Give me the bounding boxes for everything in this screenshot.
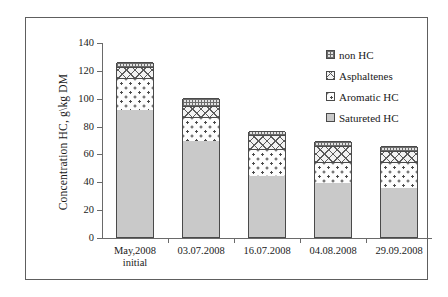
bar-segment	[249, 135, 285, 149]
y-tick-label: 100	[34, 93, 94, 104]
y-tick	[97, 182, 102, 183]
y-tick	[97, 99, 102, 100]
bar-segment	[117, 110, 153, 237]
bar-segment	[249, 176, 285, 237]
legend-swatch-icon	[326, 92, 335, 101]
y-tick-label: 80	[34, 121, 94, 132]
bar-segment	[183, 141, 219, 237]
legend-item-label: Aromatic HC	[339, 91, 399, 103]
bar[interactable]	[380, 147, 418, 238]
chart-frame: Concentration HC, g\kg DM 02040608010012…	[25, 17, 428, 280]
x-tick-label: 29.09.2008	[351, 245, 447, 257]
legend-swatch-icon	[326, 113, 335, 122]
bar-segment	[315, 183, 351, 237]
y-tick-label: 40	[34, 177, 94, 188]
legend-item[interactable]: Aromatic HC	[326, 86, 446, 107]
bar-segment	[249, 149, 285, 175]
y-tick	[97, 71, 102, 72]
x-tick	[168, 238, 169, 243]
bar[interactable]	[116, 63, 154, 239]
bar-segment	[117, 67, 153, 78]
bar-segment	[183, 106, 219, 117]
legend-item[interactable]: non HC	[326, 44, 446, 65]
y-tick	[97, 238, 102, 239]
y-tick-label: 120	[34, 66, 94, 77]
bar-segment	[381, 151, 417, 162]
bar-segment	[315, 162, 351, 183]
legend-item[interactable]: Asphaltenes	[326, 65, 446, 86]
chart-figure: Concentration HC, g\kg DM 02040608010012…	[0, 0, 448, 297]
y-tick	[97, 154, 102, 155]
legend-swatch-icon	[326, 50, 335, 59]
bar[interactable]	[314, 142, 352, 238]
bar-segment	[117, 62, 153, 68]
bar-segment	[381, 146, 417, 150]
legend-item-label: Satureted HC	[339, 112, 399, 124]
bar-segment	[183, 117, 219, 141]
bar[interactable]	[248, 132, 286, 238]
legend-item-label: non HC	[339, 49, 374, 61]
bar-segment	[381, 162, 417, 188]
y-tick-label: 140	[34, 38, 94, 49]
legend-swatch-icon	[326, 71, 335, 80]
bar-segment	[381, 188, 417, 237]
legend-item[interactable]: Satureted HC	[326, 107, 446, 128]
bar-segment	[315, 146, 351, 161]
x-axis-line	[102, 238, 432, 239]
chart-legend: non HCAsphaltenesAromatic HCSatureted HC	[326, 44, 446, 128]
legend-item-label: Asphaltenes	[339, 70, 393, 82]
x-tick	[300, 238, 301, 243]
y-tick	[97, 210, 102, 211]
x-tick	[234, 238, 235, 243]
y-tick	[97, 127, 102, 128]
y-tick-label: 60	[34, 149, 94, 160]
y-tick-label: 0	[34, 233, 94, 244]
bar-segment	[249, 131, 285, 135]
bar-segment	[315, 141, 351, 147]
y-axis-line	[102, 43, 103, 238]
x-tick	[366, 238, 367, 243]
y-tick	[97, 43, 102, 44]
bar-segment	[183, 98, 219, 106]
y-tick-label: 20	[34, 205, 94, 216]
bar[interactable]	[182, 99, 220, 238]
bar-segment	[117, 78, 153, 110]
